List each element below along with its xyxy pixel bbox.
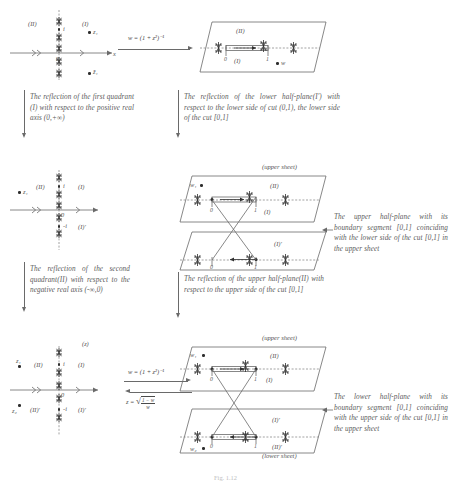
row3-point-z1-label: z₁ [16, 357, 21, 364]
row2-z-plane: i -i (II) (I) (I)′ z₁ 0 [8, 168, 124, 252]
row3-sheet-connectors [178, 343, 328, 453]
row3-upper-sheet-label: (upper sheet) [262, 334, 297, 341]
row3-point-minus-i-dot [58, 408, 61, 411]
row1-caption-left: The reflection of the first quadrant (I)… [30, 92, 134, 124]
point-i-label: i [63, 25, 65, 32]
x-axis-label: x [113, 50, 116, 57]
point-i-dot [58, 28, 61, 31]
row3-z-plane: i -i (II) (I) (II)′ (I)′ z₁ z₂ 0 [8, 344, 124, 438]
row2-origin-label: 0 [61, 211, 64, 218]
row2-point-z1-label: z₁ [23, 188, 28, 195]
row2-caption-left-group: The reflection of the second quadrant(II… [24, 262, 142, 314]
row3-point-z1-dot [18, 365, 21, 368]
point-z1-label: z₁ [93, 28, 98, 35]
point-w-dot [276, 62, 279, 65]
row3-point-i-label: i [63, 360, 65, 367]
row3-inverse-formula: z = √ 1 − w w [126, 396, 155, 410]
row1-z-plane: i (II) (I) z₁ z̄₁ 0 x [8, 6, 120, 84]
row3-origin-label: 0 [61, 391, 64, 398]
row2-caption-right: The upper half-plane with its boundary s… [334, 212, 448, 254]
w-plane-label-upper: (II) [236, 27, 245, 34]
quadrant-II-label: (II) [28, 20, 37, 27]
row2-caption-mid: The reflection of the upper half-plane(I… [184, 274, 324, 295]
w-plane-label-lower: (I) [234, 57, 240, 64]
row2-point-i-label: i [63, 182, 65, 189]
row3-quadrant-II-label: (II) [34, 361, 43, 368]
row2-quadrant-II-label: (II) [36, 183, 45, 190]
row2-quadrant-I-prime-label: (I)′ [78, 223, 86, 230]
row1-caption-right-group: The reflection of the lower half-plane(I… [178, 90, 346, 142]
row3-lower-sheet-label: (lower sheet) [262, 452, 297, 459]
inverse-denominator: w [141, 404, 155, 410]
row2-sheet-connectors [178, 172, 328, 272]
figure-canvas: i (II) (I) z₁ z̄₁ 0 x w = (1 + z²)⁻¹ [0, 0, 451, 492]
row2-caption-mid-group: The reflection of the upper half-plane(I… [178, 272, 328, 322]
row3-quadrant-II-prime-label: (II)′ [30, 406, 40, 413]
row3-caption-right-group: The lower half-plane with its boundary s… [332, 392, 450, 444]
row3-quadrant-I-label: (I) [78, 361, 84, 368]
row3-quadrant-I-prime-label: (I)′ [78, 406, 86, 413]
forward-formula: w = (1 + z²)⁻¹ [128, 34, 164, 42]
row2-caption-left: The reflection of the second quadrant(II… [30, 264, 130, 296]
origin-label: 0 [56, 55, 59, 62]
row1-caption-right: The reflection of the lower half-plane(I… [184, 92, 340, 124]
row2-point-minus-i-label: -i [63, 222, 67, 229]
row2-upper-sheet-label: (upper sheet) [262, 163, 297, 170]
row1-caption-left-group: The reflection of the first quadrant (I)… [24, 90, 146, 142]
row3-caption-right: The lower half-plane with its boundary s… [334, 392, 448, 434]
inverse-prefix: z = [126, 398, 136, 405]
row3-point-z2-label: z₂ [12, 407, 17, 414]
row3-forward-formula: w = (1 + z²)⁻¹ [128, 368, 164, 376]
tick-one-label: 1 [266, 56, 269, 62]
point-z1-dot [88, 31, 91, 34]
row2-point-i-dot [58, 185, 61, 188]
row2-point-minus-i-dot [58, 225, 61, 228]
row3-point-minus-i-label: -i [63, 405, 67, 412]
row2-point-z1-dot [18, 191, 21, 194]
quadrant-I-label: (I) [82, 20, 88, 27]
row2-caption-right-group: The upper half-plane with its boundary s… [332, 212, 450, 262]
row1-transform-arrow: w = (1 + z²)⁻¹ [118, 34, 196, 54]
point-w-label: w [281, 59, 285, 66]
inverse-numerator: 1 − w [141, 397, 155, 404]
row1-w-plane: (II) (I) 0 1 w [198, 16, 328, 78]
point-z1-conj-dot [88, 72, 91, 75]
tick-zero-label: 0 [224, 56, 227, 62]
row3-point-z2-dot [18, 404, 21, 407]
point-z1-conj-label: z̄₁ [93, 68, 98, 75]
row2-quadrant-I-label: (I) [78, 183, 84, 190]
row3-point-i-dot [58, 363, 61, 366]
figure-caption: Fig. 1.12 [0, 474, 451, 481]
